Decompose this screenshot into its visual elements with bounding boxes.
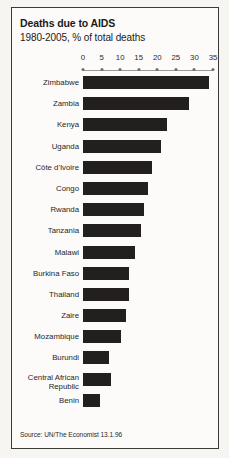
x-tick-mark (212, 68, 215, 71)
bar-row: Tanzania (19, 224, 211, 245)
bar-category-label: Central African Republic (19, 373, 79, 392)
bar-row: Central African Republic (19, 373, 211, 394)
bar-category-label: Rwanda (19, 205, 79, 215)
bar (83, 224, 141, 237)
bar-category-label: Zaire (19, 311, 79, 321)
x-tick-mark (174, 68, 177, 71)
page-subtitle: 1980-2005, % of total deaths (20, 31, 211, 45)
x-axis-tick-labels: 05101520253035 (19, 53, 211, 68)
bar-row: Zambia (19, 97, 211, 118)
x-tick-label: 35 (209, 53, 218, 62)
bar-category-label: Malawi (19, 248, 79, 258)
bar-category-label: Mozambique (19, 332, 79, 342)
x-axis-line (19, 68, 211, 73)
bar-category-label: Benin (19, 396, 79, 406)
bar-rows: ZimbabweZambiaKenyaUgandaCôte d'IvoireCo… (19, 76, 211, 415)
x-tick-label: 25 (172, 53, 181, 62)
x-tick-label: 5 (99, 53, 103, 62)
bar-row: Congo (19, 182, 211, 203)
chart-frame: Deaths due to AIDS 1980-2005, % of total… (11, 7, 219, 449)
bar (83, 161, 152, 174)
x-tick-mark (100, 68, 103, 71)
bar (83, 394, 100, 407)
bar-row: Zimbabwe (19, 76, 211, 97)
x-tick-mark (193, 68, 196, 71)
bar-row: Mozambique (19, 330, 211, 351)
bar-row: Burkina Faso (19, 267, 211, 288)
x-tick-label: 15 (134, 53, 143, 62)
bar-category-label: Côte d'Ivoire (19, 163, 79, 173)
x-tick-mark (119, 68, 122, 71)
bar-category-label: Uganda (19, 142, 79, 152)
x-tick-label: 10 (116, 53, 125, 62)
bar-row: Burundi (19, 351, 211, 372)
x-tick-label: 0 (81, 53, 85, 62)
bar (83, 351, 109, 364)
bar-category-label: Zimbabwe (19, 78, 79, 88)
bar (83, 267, 129, 280)
page-title: Deaths due to AIDS (20, 17, 211, 30)
bar-category-label: Zambia (19, 99, 79, 109)
x-tick-label: 20 (153, 53, 162, 62)
x-tick-mark (82, 68, 85, 71)
bar-row: Benin (19, 394, 211, 415)
bar-category-label: Burkina Faso (19, 269, 79, 279)
x-tick-mark (156, 68, 159, 71)
bar-row: Malawi (19, 246, 211, 267)
bar-row: Uganda (19, 140, 211, 161)
bar-row: Zaire (19, 309, 211, 330)
bar-category-label: Kenya (19, 120, 79, 130)
bar (83, 140, 161, 153)
chart-panel: Deaths due to AIDS 1980-2005, % of total… (12, 8, 218, 448)
scanned-page: Deaths due to AIDS 1980-2005, % of total… (0, 0, 229, 458)
bar-chart: 05101520253035 ZimbabweZambiaKenyaUganda… (19, 53, 211, 413)
bar-row: Côte d'Ivoire (19, 161, 211, 182)
bar (83, 118, 167, 131)
bar (83, 309, 126, 322)
bar (83, 203, 144, 216)
bar (83, 97, 189, 110)
bar-category-label: Thailand (19, 290, 79, 300)
bar (83, 246, 135, 259)
x-tick-label: 30 (190, 53, 199, 62)
bar-category-label: Burundi (19, 353, 79, 363)
bar (83, 373, 111, 386)
source-note: Source: UN/The Economist 13.1.96 (20, 431, 122, 438)
bar-row: Kenya (19, 118, 211, 139)
x-tick-mark (137, 68, 140, 71)
bar (83, 76, 209, 89)
bar (83, 182, 148, 195)
bar-row: Thailand (19, 288, 211, 309)
bar-category-label: Tanzania (19, 226, 79, 236)
bar (83, 288, 129, 301)
bar (83, 330, 121, 343)
bar-category-label: Congo (19, 184, 79, 194)
bar-row: Rwanda (19, 203, 211, 224)
